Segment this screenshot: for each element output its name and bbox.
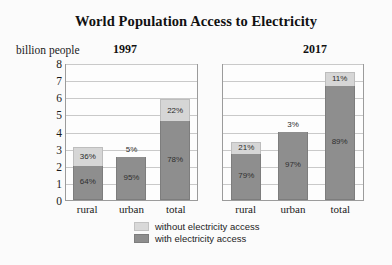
segment-label: 64% (80, 178, 96, 186)
category-label-rural: rural (225, 203, 267, 215)
bar-total-2017[interactable]: 11% 89% (325, 65, 355, 200)
category-label-total: total (319, 203, 361, 215)
chart-page: World Population Access to Electricity b… (0, 0, 392, 265)
segment-label: 5% (126, 146, 138, 154)
panel-title-1997: 1997 (95, 42, 155, 57)
segment-without-access: 5% (116, 146, 146, 157)
segment-without-access: 36% (73, 147, 103, 166)
segment-label: 11% (332, 75, 347, 83)
chart-title: World Population Access to Electricity (0, 13, 392, 30)
y-axis: 876543210 (40, 64, 62, 201)
segment-label: 95% (123, 174, 139, 182)
segment-without-access: 3% (278, 121, 308, 132)
bar-group-2017: 21% 79% 3% 97% 11% 89% (223, 65, 363, 200)
legend-item-without-access: without electricity access (134, 222, 260, 232)
bar-total-1997[interactable]: 22% 78% (160, 65, 190, 200)
segment-label: 3% (287, 121, 299, 129)
segment-with-access: 78% (160, 121, 190, 200)
category-labels-2017: rural urban total (222, 203, 364, 217)
y-axis-tick: 7 (40, 75, 62, 87)
y-axis-tick: 3 (40, 144, 62, 156)
legend-label: with electricity access (155, 234, 246, 244)
category-labels-1997: rural urban total (65, 203, 198, 217)
bar-rural-2017[interactable]: 21% 79% (231, 65, 261, 200)
chart-panel-2017: 21% 79% 3% 97% 11% 89% (222, 64, 364, 201)
legend-label: without electricity access (155, 222, 260, 232)
panel-title-2017: 2017 (285, 42, 345, 57)
y-axis-label: billion people (16, 44, 80, 56)
segment-with-access: 79% (231, 154, 261, 200)
y-axis-tick: 6 (40, 92, 62, 104)
category-label-total: total (155, 203, 197, 215)
segment-label: 89% (332, 138, 348, 146)
y-axis-tick: 0 (40, 195, 62, 207)
y-axis-tick: 8 (40, 58, 62, 70)
legend-swatch-icon (134, 222, 149, 231)
segment-label: 21% (238, 144, 254, 152)
y-axis-tick: 5 (40, 109, 62, 121)
chart-legend: without electricity access with electric… (134, 222, 260, 245)
legend-swatch-icon (134, 234, 149, 243)
segment-label: 22% (167, 107, 183, 115)
segment-label: 97% (285, 161, 301, 169)
y-axis-tick: 4 (40, 127, 62, 139)
segment-without-access: 11% (325, 72, 355, 86)
legend-item-with-access: with electricity access (134, 234, 260, 244)
y-axis-tick: 1 (40, 178, 62, 190)
segment-with-access: 95% (116, 157, 146, 200)
segment-label: 78% (167, 156, 183, 164)
segment-with-access: 89% (325, 86, 355, 200)
segment-label: 79% (238, 172, 254, 180)
category-label-urban: urban (110, 203, 152, 215)
segment-label: 36% (80, 153, 96, 161)
bar-rural-1997[interactable]: 36% 64% (73, 65, 103, 200)
segment-with-access: 64% (73, 166, 103, 200)
bar-urban-2017[interactable]: 3% 97% (278, 65, 308, 200)
category-label-rural: rural (66, 203, 108, 215)
segment-with-access: 97% (278, 132, 308, 200)
y-axis-tick: 2 (40, 161, 62, 173)
segment-without-access: 21% (231, 142, 261, 154)
bar-urban-1997[interactable]: 5% 95% (116, 65, 146, 200)
chart-panel-1997: 36% 64% 5% 95% 22% 78% (65, 64, 198, 201)
category-label-urban: urban (272, 203, 314, 215)
segment-without-access: 22% (160, 99, 190, 121)
bar-group-1997: 36% 64% 5% 95% 22% 78% (66, 65, 197, 200)
